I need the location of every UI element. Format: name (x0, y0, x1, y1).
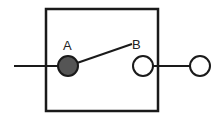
switch-lever (77, 44, 132, 63)
terminal-a (58, 56, 78, 76)
switch-diagram: A B (0, 0, 224, 117)
label-b: B (132, 37, 141, 52)
terminal-b (133, 56, 153, 76)
label-a: A (63, 38, 72, 53)
output-terminal (190, 56, 210, 76)
